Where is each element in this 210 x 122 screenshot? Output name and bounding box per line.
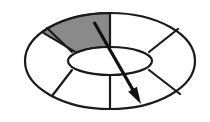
diagram-canvas: Annulus with highlighted sector and dire… (0, 0, 210, 122)
annulus-diagram-svg: Annulus with highlighted sector and dire… (0, 0, 210, 122)
